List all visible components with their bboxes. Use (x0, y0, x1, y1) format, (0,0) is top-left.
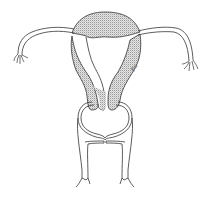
fundus (72, 12, 140, 38)
right-fallopian-tube (138, 27, 193, 61)
right-fimbriae (182, 60, 198, 71)
uterus-diagram (0, 0, 210, 199)
left-fallopian-tube (18, 27, 74, 55)
anatomy-figure: Pa (0, 0, 210, 199)
left-fimbriae (14, 54, 28, 64)
uterine-wall (71, 34, 141, 110)
